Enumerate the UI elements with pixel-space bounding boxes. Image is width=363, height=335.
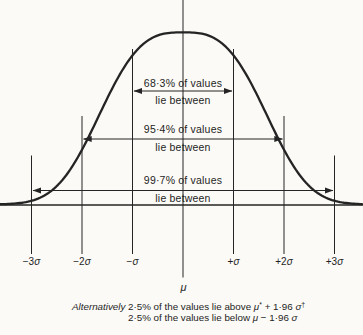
band-95-percent-label: 95·4% of values (144, 123, 222, 135)
band-68-percent-label: 68·3% of values (144, 77, 222, 89)
band-95-range-label: lie between (155, 141, 210, 153)
footnote-line-2: 2·5% of the values lie below μ − 1·96 σ (128, 312, 299, 323)
tick-minus-3-sigma: −3σ (23, 256, 41, 267)
tick-plus-2-sigma: +2σ (275, 256, 293, 267)
tick-plus-3-sigma: +3σ (326, 256, 344, 267)
band-68-range-label: lie between (155, 94, 210, 106)
band-99-range-label: lie between (155, 192, 210, 204)
figure-canvas: 68·3% of values lie between 95·4% of val… (0, 0, 363, 335)
footnote-lead: Alternatively (71, 301, 126, 312)
footnote-line-1: 2·5% of the values lie above μ* + 1·96 σ… (128, 301, 305, 313)
mean-label: μ (179, 281, 186, 293)
tick-minus-2-sigma: −2σ (73, 256, 91, 267)
normal-distribution-figure: 68·3% of values lie between 95·4% of val… (0, 0, 363, 335)
tick-minus-1-sigma: −σ (127, 256, 140, 267)
band-99-percent-label: 99·7% of values (144, 174, 222, 186)
tick-plus-1-sigma: +σ (228, 256, 241, 267)
